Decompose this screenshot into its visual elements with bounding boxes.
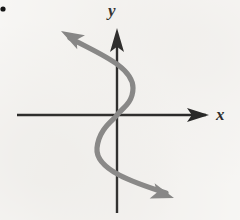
- figure-container: y x: [0, 0, 240, 220]
- y-axis-label: y: [108, 2, 116, 19]
- item-bullet-icon: [0, 6, 5, 11]
- coordinate-plane-figure: [0, 0, 240, 220]
- x-axis-label: x: [216, 106, 225, 123]
